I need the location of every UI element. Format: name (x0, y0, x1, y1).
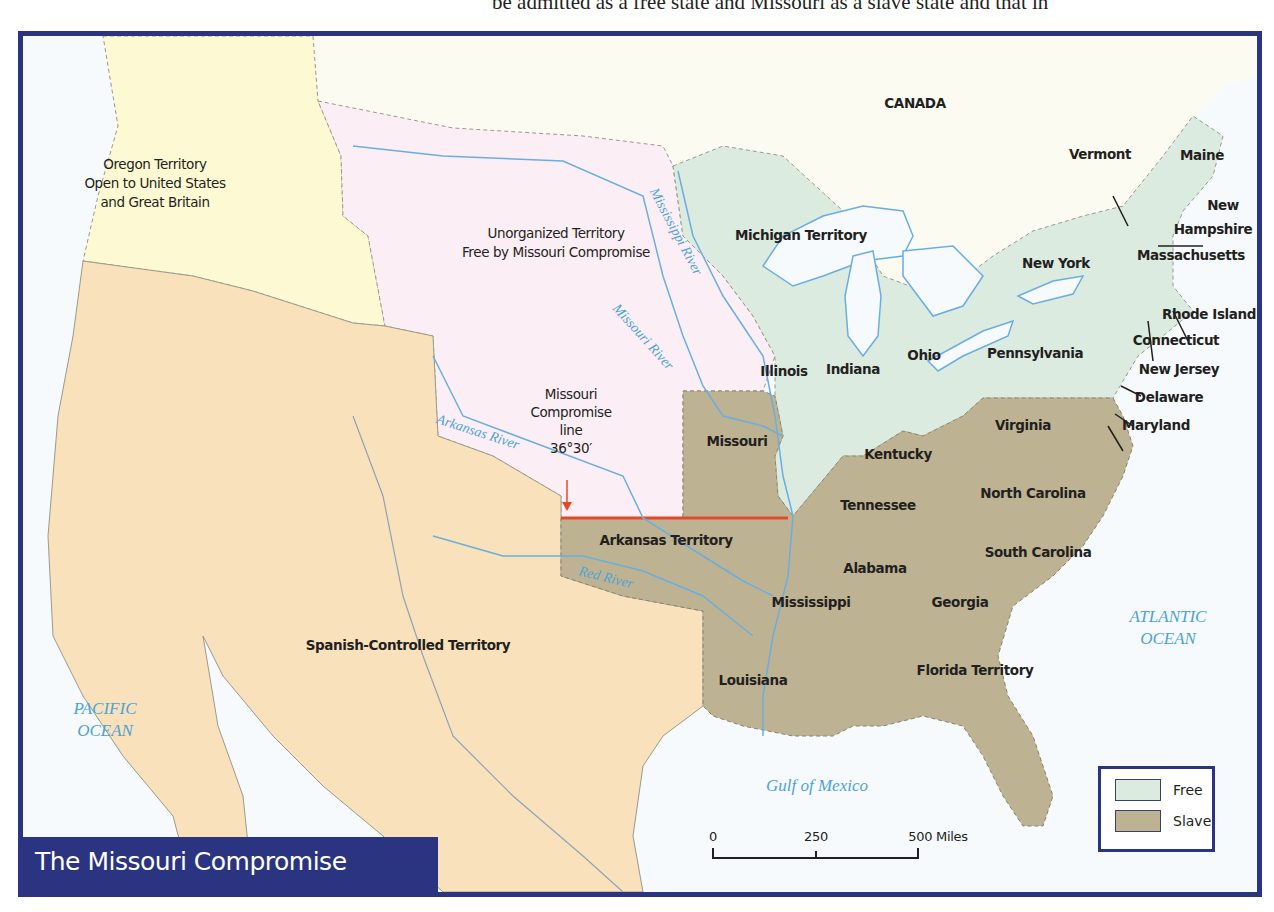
legend-swatch-free (1115, 779, 1161, 801)
label-illinois: Illinois (760, 362, 807, 381)
legend-label-slave: Slave (1173, 813, 1211, 829)
label-massachusetts: Massachusetts (1137, 246, 1245, 265)
label-south-carolina: South Carolina (985, 543, 1092, 562)
scale-bar-graphic (713, 848, 918, 859)
label-mississippi: Mississippi (771, 593, 850, 612)
label-georgia: Georgia (932, 593, 989, 612)
label-ohio: Ohio (907, 346, 940, 365)
label-florida-territory: Florida Territory (917, 661, 1034, 680)
map-title: The Missouri Compromise (35, 847, 347, 876)
label-new-hampshire-2: Hampshire (1174, 220, 1253, 239)
label-unorganized-territory: Unorganized Territory Free by Missouri C… (462, 224, 650, 262)
legend-item-slave: Slave (1115, 810, 1211, 832)
scale-label-0: 0 (709, 829, 717, 844)
label-atlantic-ocean: ATLANTIC OCEAN (1130, 606, 1207, 650)
label-arkansas-territory: Arkansas Territory (599, 531, 732, 550)
label-new-york: New York (1022, 254, 1090, 273)
label-louisiana: Louisiana (718, 671, 787, 690)
map-frame: Oregon Territory Open to United States a… (18, 31, 1262, 897)
label-gulf-of-mexico: Gulf of Mexico (766, 775, 868, 797)
legend-swatch-slave (1115, 810, 1161, 832)
label-kentucky: Kentucky (864, 445, 932, 464)
label-vermont: Vermont (1069, 145, 1131, 164)
legend-label-free: Free (1173, 782, 1203, 798)
label-new-hampshire-1: New (1207, 196, 1239, 215)
label-pacific-ocean: PACIFIC OCEAN (74, 698, 137, 742)
map-legend: Free Slave (1098, 766, 1215, 852)
label-tennessee: Tennessee (840, 496, 916, 515)
label-spanish-controlled-territory: Spanish-Controlled Territory (306, 636, 510, 655)
label-virginia: Virginia (995, 416, 1051, 435)
legend-item-free: Free (1115, 779, 1203, 801)
label-missouri: Missouri (706, 432, 767, 451)
label-connecticut: Connecticut (1133, 331, 1219, 350)
label-canada: CANADA (884, 94, 945, 113)
label-compromise-line: Missouri Compromise line 36°30′ (530, 385, 611, 457)
label-michigan-territory: Michigan Territory (735, 226, 867, 245)
page-body-text: be admitted as a free state and Missouri… (492, 0, 1048, 15)
label-alabama: Alabama (843, 559, 906, 578)
label-delaware: Delaware (1135, 388, 1203, 407)
lake-michigan (845, 251, 881, 356)
scale-label-250: 250 (804, 829, 828, 844)
label-indiana: Indiana (826, 360, 880, 379)
label-oregon-territory: Oregon Territory Open to United States a… (84, 155, 225, 212)
label-maryland: Maryland (1122, 416, 1190, 435)
label-north-carolina: North Carolina (980, 484, 1085, 503)
map-title-box: The Missouri Compromise (23, 837, 438, 892)
label-pennsylvania: Pennsylvania (987, 344, 1083, 363)
scale-label-500: 500 Miles (908, 829, 967, 844)
label-maine: Maine (1180, 146, 1224, 165)
label-rhode-island: Rhode Island (1162, 305, 1256, 324)
label-new-jersey: New Jersey (1139, 360, 1219, 379)
